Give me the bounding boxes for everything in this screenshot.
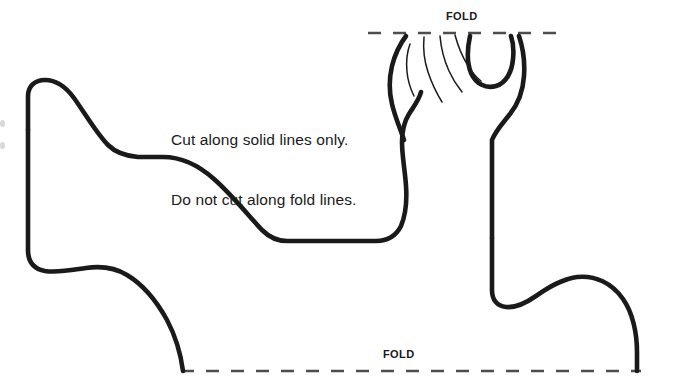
- instruction-text-block: Cut along solid lines only. Do not cut a…: [171, 90, 356, 250]
- scan-edge-artifact-upper: [0, 120, 5, 127]
- big-toe-outline: [468, 36, 514, 87]
- instruction-line-1: Cut along solid lines only.: [171, 130, 356, 150]
- scan-edge-artifact-lower: [0, 142, 5, 149]
- template-canvas: Cut along solid lines only. Do not cut a…: [0, 0, 676, 391]
- instruction-line-2: Do not cut along fold lines.: [171, 190, 356, 210]
- fold-label-bottom: FOLD: [383, 348, 415, 360]
- toe-crease-2: [424, 37, 442, 102]
- toe-crease-3: [440, 36, 462, 92]
- fold-label-top: FOLD: [446, 10, 478, 22]
- toe-crease-1: [407, 44, 414, 96]
